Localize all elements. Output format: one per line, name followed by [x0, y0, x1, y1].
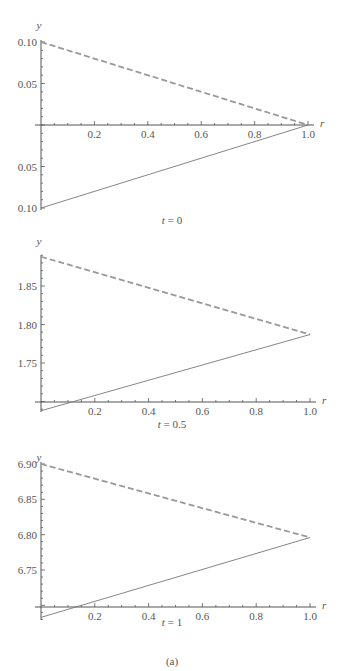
panel-title-eq: =	[165, 616, 177, 628]
y-tick-label: 1.80	[18, 319, 38, 331]
panel-title-value: 1	[177, 616, 183, 628]
dashed-series-line	[41, 42, 308, 125]
x-axis-label: r	[320, 117, 325, 129]
y-tick-label: 1.85	[18, 280, 38, 292]
y-tick-label: 0.05	[18, 161, 38, 173]
x-tick-label: 0.6	[196, 405, 210, 417]
x-tick-label: 0.4	[141, 128, 155, 140]
chart-panel-1: 0.20.40.60.81.0r1.851.801.75yt = 0.5	[18, 235, 327, 430]
x-tick-label: 0.6	[196, 610, 210, 622]
y-tick-label: 6.75	[18, 564, 38, 576]
y-tick-label: 0.05	[18, 78, 38, 90]
x-tick-label: 0.4	[142, 610, 156, 622]
chart-panel-2: 0.20.40.60.81.0r6.906.856.806.75yt = 1	[18, 451, 327, 628]
x-tick-label: 0.8	[248, 128, 262, 140]
panel-title-value: 0.5	[173, 418, 187, 430]
x-tick-label: 0.2	[88, 405, 102, 417]
x-axis-label: r	[322, 599, 327, 611]
x-tick-label: 1.0	[303, 405, 317, 417]
chart-panel-0: 0.20.40.60.81.0r0.100.050.050.10yt = 0	[18, 19, 325, 226]
y-axis-label: y	[36, 235, 42, 247]
y-tick-label: 6.80	[18, 529, 38, 541]
y-axis-label: y	[36, 451, 42, 463]
y-tick-label: 1.75	[18, 357, 38, 369]
x-tick-label: 1.0	[303, 610, 317, 622]
dashed-series-line	[41, 257, 310, 335]
solid-series-line	[41, 335, 310, 411]
y-tick-label: 0.10	[18, 36, 38, 48]
panel-title: t = 1	[162, 616, 182, 628]
figure: 0.20.40.60.81.0r0.100.050.050.10yt = 00.…	[0, 0, 340, 671]
x-tick-label: 0.2	[88, 128, 102, 140]
panel-title: t = 0	[162, 214, 183, 226]
x-tick-label: 0.8	[249, 405, 263, 417]
y-tick-label: 6.90	[18, 458, 38, 470]
y-tick-label: 6.85	[18, 493, 38, 505]
y-axis-label: y	[36, 19, 42, 31]
x-tick-label: 0.6	[194, 128, 208, 140]
x-tick-label: 1.0	[301, 128, 315, 140]
y-tick-label: 0.10	[18, 202, 38, 214]
panel-title-eq: =	[161, 418, 173, 430]
x-tick-label: 0.4	[142, 405, 156, 417]
panel-title-eq: =	[165, 214, 177, 226]
x-tick-label: 0.8	[249, 610, 263, 622]
panel-title: t = 0.5	[158, 418, 187, 430]
solid-series-line	[41, 125, 308, 208]
x-axis-label: r	[322, 394, 327, 406]
figure-caption: (a)	[166, 655, 179, 668]
panel-title-value: 0	[177, 214, 183, 226]
dashed-series-line	[41, 464, 310, 537]
x-tick-label: 0.2	[88, 610, 102, 622]
